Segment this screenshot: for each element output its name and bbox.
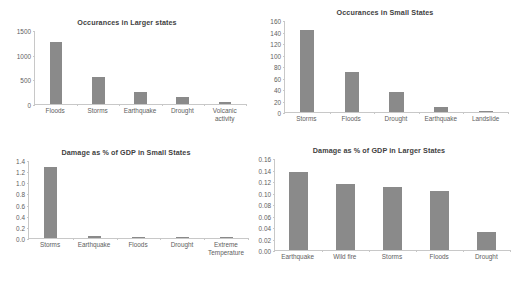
x-axis-labels: EarthquakeWild fireStormsFloodsDrought — [274, 251, 510, 261]
x-axis-tick-label: Earthquake — [418, 113, 463, 123]
y-axis-tick-label: 0.16 — [259, 156, 271, 163]
y-axis-tick-label: 20 — [274, 98, 281, 105]
bar — [88, 236, 101, 238]
bar — [434, 107, 448, 112]
x-axis-tick-label: Drought — [463, 251, 510, 261]
y-axis-tickmark — [283, 56, 285, 57]
x-axis-tick-label: Floods — [34, 105, 76, 123]
bar — [132, 237, 145, 238]
x-axis-tick-label: Storms — [368, 251, 415, 261]
x-axis-tick-label: Floods — [116, 239, 160, 257]
x-axis-labels: StormsFloodsDroughtEarthquakeLandslide — [284, 113, 508, 123]
x-axis-tick-label: Landslide — [463, 113, 508, 123]
y-axis-tick-label: 0 — [277, 110, 281, 117]
y-axis-tick-label: 0.06 — [259, 213, 271, 220]
y-axis-tick-label: 1.0 — [16, 180, 25, 187]
y-axis-tick-label: 120 — [270, 41, 281, 48]
plot-area — [274, 159, 510, 251]
y-axis-tickmark — [283, 102, 285, 103]
y-axis-tick-label: 0 — [27, 102, 31, 109]
y-axis-tickmark — [27, 161, 29, 162]
bar — [345, 72, 359, 112]
x-axis-tick-label: Wild fire — [321, 251, 368, 261]
y-axis-tick-label: 1.4 — [16, 158, 25, 165]
y-axis-tickmark — [273, 171, 275, 172]
plot-region: 0.000.020.040.060.080.100.120.140.16 — [248, 159, 510, 251]
y-axis-tickmark — [273, 240, 275, 241]
y-axis-tick-label: 0.14 — [259, 167, 271, 174]
y-axis-tick-label: 0.10 — [259, 190, 271, 197]
y-axis: 0.000.020.040.060.080.100.120.140.16 — [248, 159, 274, 251]
y-axis-tick-label: 0.8 — [16, 191, 25, 198]
bar — [300, 30, 314, 112]
chart-occurances-larger-states: Occurances in Larger states050010001500F… — [8, 18, 246, 136]
x-axis-tickmark — [510, 250, 511, 252]
y-axis-tickmark — [283, 67, 285, 68]
x-axis-tick-label: Earthquake — [119, 105, 161, 123]
y-axis-tick-label: 0.00 — [259, 248, 271, 255]
chart-title: Damage as % of GDP in Larger States — [248, 146, 510, 155]
bar — [50, 42, 63, 104]
plot-region: 0.00.20.40.60.81.01.21.4 — [4, 161, 248, 239]
x-axis-tick-label: Drought — [160, 239, 204, 257]
y-axis-tick-label: 0.02 — [259, 236, 271, 243]
y-axis-tickmark — [283, 33, 285, 34]
y-axis-tickmark — [27, 217, 29, 218]
y-axis-tickmark — [283, 90, 285, 91]
figure-sheet: Occurances in Larger states050010001500F… — [0, 0, 514, 288]
y-axis-tickmark — [273, 217, 275, 218]
y-axis-tick-label: 0.04 — [259, 225, 271, 232]
bar — [92, 77, 105, 104]
y-axis-tickmark — [283, 21, 285, 22]
bar — [430, 191, 450, 250]
y-axis-tick-label: 1.2 — [16, 169, 25, 176]
y-axis-tick-label: 0.12 — [259, 179, 271, 186]
y-axis-tickmark — [33, 80, 35, 81]
x-axis-labels: FloodsStormsEarthquakeDroughtVolcanic ac… — [34, 105, 246, 123]
bar — [477, 232, 497, 250]
y-axis-tickmark — [27, 172, 29, 173]
bar — [383, 187, 403, 250]
y-axis-tickmark — [273, 205, 275, 206]
x-axis-tickmark — [508, 112, 509, 114]
y-axis-tick-label: 40 — [274, 87, 281, 94]
y-axis-tick-label: 0.6 — [16, 202, 25, 209]
y-axis-tickmark — [283, 79, 285, 80]
y-axis-tickmark — [33, 56, 35, 57]
x-axis-tick-label: Volcanic activity — [204, 105, 246, 123]
plot-area — [34, 31, 246, 105]
y-axis-tickmark — [27, 206, 29, 207]
chart-title: Damage as % of GDP in Small States — [4, 148, 248, 157]
y-axis: 020406080100120140160 — [262, 21, 284, 113]
x-axis-tick-label: Drought — [161, 105, 203, 123]
plot-area — [284, 21, 508, 113]
x-axis-tickmark — [246, 104, 247, 106]
y-axis-tickmark — [27, 183, 29, 184]
x-axis-tick-label: Storms — [76, 105, 118, 123]
bar — [176, 97, 189, 104]
y-axis-tickmark — [27, 228, 29, 229]
bar — [219, 102, 232, 104]
bar — [44, 167, 57, 238]
y-axis-tick-label: 1500 — [17, 28, 31, 35]
x-axis-labels: StormsEarthquakeFloodsDroughtExtreme Tem… — [28, 239, 248, 257]
y-axis-tickmark — [273, 159, 275, 160]
y-axis-tick-label: 0.0 — [16, 236, 25, 243]
bar — [289, 172, 309, 250]
y-axis-tick-label: 80 — [274, 64, 281, 71]
plot-region: 020406080100120140160 — [262, 21, 508, 113]
x-axis-tick-label: Storms — [284, 113, 329, 123]
x-axis-tick-label: Extreme Temperature — [204, 239, 248, 257]
x-axis-tick-label: Storms — [28, 239, 72, 257]
y-axis-tickmark — [273, 228, 275, 229]
bar — [176, 237, 189, 238]
x-axis-tick-label: Earthquake — [72, 239, 116, 257]
y-axis-tick-label: 160 — [270, 18, 281, 25]
y-axis: 050010001500 — [8, 31, 34, 105]
y-axis-tick-label: 60 — [274, 75, 281, 82]
plot-region: 050010001500 — [8, 31, 246, 105]
bar — [220, 237, 233, 238]
y-axis-tick-label: 100 — [270, 52, 281, 59]
bar — [479, 111, 493, 112]
chart-occurances-small-states: Occurances in Small States02040608010012… — [262, 8, 508, 136]
